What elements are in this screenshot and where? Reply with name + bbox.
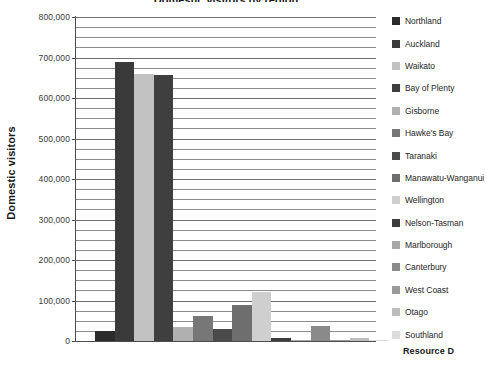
legend-item-label: Nelson-Tasman [405,218,463,228]
legend-swatch-icon [392,196,400,204]
legend-item-label: Hawke's Bay [405,128,453,138]
legend-swatch-icon [392,17,400,25]
legend-item-label: Waikato [405,61,435,71]
bar [213,329,233,341]
legend-item[interactable]: Gisborne [392,100,500,122]
legend-swatch-icon [392,40,400,48]
legend-item[interactable]: Manawatu-Wanganui [392,167,500,189]
bar [173,327,193,341]
legend-item[interactable]: Canterbury [392,256,500,278]
legend-swatch-icon [392,331,400,339]
legend-swatch-icon [392,219,400,227]
bar [311,326,331,341]
legend-swatch-icon [392,286,400,294]
y-tick-label: 700,000 [39,53,70,63]
bar [232,305,252,341]
legend-item-label: Marlborough [405,240,452,250]
y-tick-label: 0 [65,336,70,346]
legend-swatch-icon [392,107,400,115]
y-tick-label: 800,000 [39,12,70,22]
y-tick-label: 300,000 [39,215,70,225]
legend-item-label: Gisborne [405,106,439,116]
legend-item[interactable]: Auckland [392,32,500,54]
y-tick [72,58,76,59]
y-tick-label: 200,000 [39,255,70,265]
legend-swatch-icon [392,263,400,271]
legend-item-label: Manawatu-Wanganui [405,173,484,183]
legend-item[interactable]: Nelson-Tasman [392,212,500,234]
legend-item[interactable]: West Coast [392,279,500,301]
legend-item[interactable]: Waikato [392,55,500,77]
y-tick-label: 400,000 [39,174,70,184]
bar [154,75,174,341]
legend-item-label: Northland [405,16,441,26]
legend-item[interactable]: Southland [392,323,500,345]
legend-swatch-icon [392,62,400,70]
legend-item[interactable]: Hawke's Bay [392,122,500,144]
bar-series [76,17,376,341]
legend-item[interactable]: Wellington [392,189,500,211]
legend-swatch-icon [392,152,400,160]
legend-swatch-icon [392,241,400,249]
legend-item[interactable]: Bay of Plenty [392,77,500,99]
legend-swatch-icon [392,129,400,137]
chart-title: Domestic visitors by region [76,0,376,2]
y-tick-label: 600,000 [39,93,70,103]
legend-item-label: Bay of Plenty [405,83,454,93]
y-tick-label: 100,000 [39,296,70,306]
legend-item[interactable]: Marlborough [392,234,500,256]
bar [252,292,272,341]
y-axis-title-text: Domestic visitors [5,126,17,219]
chart-screenshot: Domestic visitors by region Domestic vis… [0,0,500,369]
y-axis-title: Domestic visitors [2,0,20,345]
legend-swatch-icon [392,174,400,182]
y-tick [72,17,76,18]
bar [193,316,213,342]
y-tick [72,220,76,221]
y-tick [72,98,76,99]
resource-label: Resource D [403,346,454,356]
legend-swatch-icon [392,308,400,316]
legend-item[interactable]: Otago [392,301,500,323]
legend-item-label: Taranaki [405,151,437,161]
legend-item-label: West Coast [405,285,448,295]
legend: NorthlandAucklandWaikatoBay of PlentyGis… [392,10,500,346]
x-axis-line [75,341,376,342]
bar [115,62,135,341]
legend-item[interactable]: Taranaki [392,144,500,166]
y-tick [72,260,76,261]
legend-item-label: Wellington [405,195,444,205]
plot-area: 800,000700,000600,000500,000400,000300,0… [76,17,376,341]
y-tick-label: 500,000 [39,134,70,144]
y-tick [72,341,76,342]
y-tick [72,301,76,302]
legend-item-label: Southland [405,330,443,340]
y-tick [72,179,76,180]
legend-item-label: Otago [405,307,428,317]
y-tick [72,139,76,140]
legend-item-label: Canterbury [405,262,447,272]
legend-item-label: Auckland [405,39,440,49]
bar [134,74,154,341]
bar [95,331,115,341]
legend-item[interactable]: Northland [392,10,500,32]
legend-swatch-icon [392,84,400,92]
